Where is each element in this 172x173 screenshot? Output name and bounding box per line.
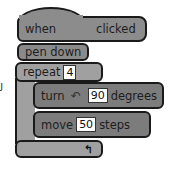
repeat-block[interactable]: repeat 4 xyxy=(15,62,103,82)
pen-down-block[interactable]: pen down xyxy=(17,43,89,61)
hat-block-join xyxy=(19,15,83,19)
degrees-label: degrees xyxy=(111,89,157,103)
move-block[interactable]: move 50 steps xyxy=(33,111,151,138)
repeat-block-bottom: ↰ xyxy=(15,140,103,158)
steps-label: steps xyxy=(99,118,130,132)
when-label: when xyxy=(25,22,56,36)
clicked-label: clicked xyxy=(96,22,136,36)
pen-down-label: pen down xyxy=(25,45,81,59)
turn-label: turn xyxy=(41,89,65,103)
when-clicked-block[interactable]: when clicked xyxy=(17,16,147,42)
repeat-count-input[interactable]: 4 xyxy=(63,65,76,80)
repeat-label: repeat xyxy=(23,65,60,79)
loop-arrow-icon: ↰ xyxy=(84,143,93,156)
move-steps-input[interactable]: 50 xyxy=(76,117,96,132)
repeat-block-arm xyxy=(15,78,35,144)
turn-degrees-input[interactable]: 90 xyxy=(88,88,108,103)
move-label: move xyxy=(41,118,73,132)
rotate-left-icon: ↶ xyxy=(71,89,81,103)
turn-block[interactable]: turn ↶ 90 degrees xyxy=(33,82,164,109)
stray-glyph: ﻟ xyxy=(0,82,3,93)
